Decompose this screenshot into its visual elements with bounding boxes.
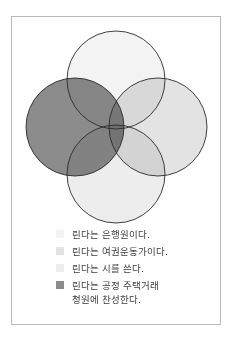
legend-label: 린다는 공정 주택거래 청원에 찬성한다. (72, 279, 159, 307)
legend-swatch (56, 281, 64, 289)
legend-item-fair-housing: 린다는 공정 주택거래 청원에 찬성한다. (56, 279, 159, 307)
legend-label: 린다는 여권운동가이다. (72, 245, 168, 259)
legend-item-feminist: 린다는 여권운동가이다. (56, 245, 168, 259)
legend-swatch (56, 230, 64, 238)
legend-item-poet: 린다는 시를 쓴다. (56, 262, 144, 276)
legend-item-bank-teller: 린다는 은행원이다. (56, 228, 150, 242)
legend-label: 린다는 은행원이다. (72, 228, 150, 242)
legend-swatch (56, 247, 64, 255)
legend-label: 린다는 시를 쓴다. (72, 262, 144, 276)
legend-swatch (56, 264, 64, 272)
